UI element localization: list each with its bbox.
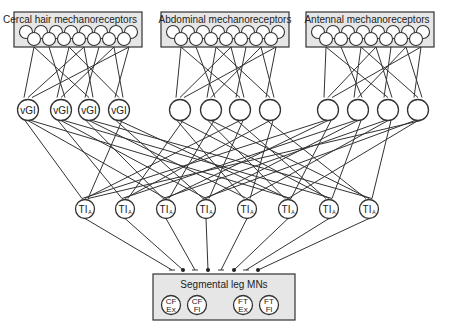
svg-text:Ex: Ex xyxy=(238,305,247,314)
receptor-cell xyxy=(380,33,393,46)
excitatory-synapse xyxy=(206,268,210,272)
neuron-label: TI xyxy=(323,204,332,215)
interneuron xyxy=(348,100,369,121)
receptor-cell xyxy=(410,33,423,46)
neuron-label: vGI xyxy=(111,105,127,116)
interneuron-layer-2: TIATIATIATIATIATIATIATIA xyxy=(76,200,379,219)
neuron-label: TI xyxy=(241,204,250,215)
excitatory-synapse xyxy=(256,268,260,272)
receptor-cell xyxy=(103,33,116,46)
network-diagram: vGIvGIvGIvGI TIATIATIATIATIATIATIATIA CF… xyxy=(0,0,449,331)
neuron-label: vGI xyxy=(20,105,36,116)
neuron-label: vGI xyxy=(53,105,69,116)
receptor-cell xyxy=(190,33,203,46)
interneuron-layer-1: vGIvGIvGIvGI xyxy=(18,100,429,121)
receptor-cell xyxy=(220,33,233,46)
receptor-cell xyxy=(28,33,41,46)
receptor-cell xyxy=(118,33,131,46)
svg-text:Fl: Fl xyxy=(194,305,201,314)
receptor-cell xyxy=(320,33,333,46)
interneuron xyxy=(260,100,281,121)
receptor-cell xyxy=(175,33,188,46)
interneuron xyxy=(378,100,399,121)
motor-box-title: Segmental leg MNs xyxy=(180,279,267,290)
connections xyxy=(24,47,422,272)
neuron-label: TI xyxy=(363,204,372,215)
interneuron xyxy=(170,100,191,121)
interneuron xyxy=(408,100,429,121)
neuron-label: TI xyxy=(79,204,88,215)
label-antennal: Antennal mechanoreceptors xyxy=(304,14,429,25)
receptor-cell xyxy=(73,33,86,46)
neuron-label: TI xyxy=(160,204,169,215)
receptor-cell xyxy=(365,33,378,46)
neuron-label: TI xyxy=(282,204,291,215)
receptor-cell xyxy=(350,33,363,46)
neuron-label: TI xyxy=(200,204,209,215)
interneuron xyxy=(318,100,339,121)
receptor-cell xyxy=(43,33,56,46)
interneuron xyxy=(230,100,251,121)
neuron-label: TI xyxy=(119,204,128,215)
neuron-label: vGI xyxy=(81,105,97,116)
excitatory-synapse xyxy=(232,268,236,272)
label-abdominal: Abdominal mechanoreceptors xyxy=(159,14,292,25)
receptor-cell xyxy=(395,33,408,46)
label-cercal: Cercal hair mechanoreceptors xyxy=(3,14,137,25)
receptor-cell xyxy=(265,33,278,46)
receptor-cell xyxy=(250,33,263,46)
receptor-cell xyxy=(205,33,218,46)
receptor-cell xyxy=(335,33,348,46)
receptor-cell xyxy=(88,33,101,46)
svg-text:Ex: Ex xyxy=(166,305,175,314)
receptor-cell xyxy=(235,33,248,46)
interneuron xyxy=(201,100,222,121)
excitatory-synapse xyxy=(181,268,185,272)
receptor-cell xyxy=(58,33,71,46)
svg-text:Fl: Fl xyxy=(266,305,273,314)
